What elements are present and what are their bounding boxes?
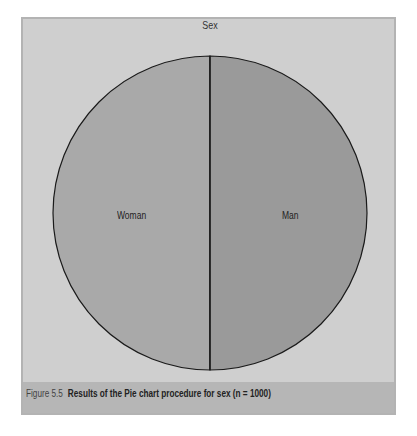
pie-svg xyxy=(23,19,394,382)
figure-caption-text: Results of the Pie chart procedure for s… xyxy=(68,388,271,399)
slice-label-woman: Woman xyxy=(117,210,146,221)
pie-chart: Sex Woman Man xyxy=(23,19,394,382)
figure-caption: Figure 5.5Results of the Pie chart proce… xyxy=(26,388,271,399)
slice-label-man: Man xyxy=(282,210,299,221)
figure-box: Sex Woman Man Figure 5.5Results of the P… xyxy=(21,17,396,415)
caption-bar: Figure 5.5Results of the Pie chart proce… xyxy=(23,382,394,413)
figure-number: Figure 5.5 xyxy=(26,388,63,399)
